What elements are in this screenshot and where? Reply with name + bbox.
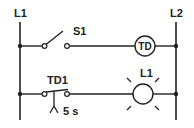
delay-label: 5 s [63, 105, 78, 117]
switch-blade [46, 31, 63, 45]
lamp [133, 84, 153, 104]
timer-coil-label: TD [138, 41, 151, 52]
timer-symbol-arrow [54, 106, 58, 113]
left-rail-label: L1 [14, 7, 27, 19]
timer-symbol-arrow [50, 106, 54, 113]
rung-2: TD1 5 s L1 [18, 67, 178, 117]
switch-label: S1 [73, 25, 86, 37]
contact-terminal [65, 92, 70, 97]
ladder-diagram: L1 L2 S1 TD TD1 5 s [0, 0, 194, 128]
timed-contact-blade [46, 90, 68, 93]
right-rail-label: L2 [170, 7, 183, 19]
lamp-label: L1 [140, 67, 153, 79]
rung-1: S1 TD [18, 25, 178, 56]
timed-contact-label: TD1 [47, 74, 68, 86]
contact-terminal [65, 44, 70, 49]
